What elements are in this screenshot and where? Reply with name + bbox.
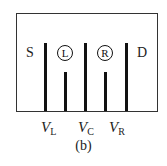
left-barrier-gate — [44, 43, 47, 111]
drain-lead-label: D — [137, 45, 147, 61]
right-dot-circle: R — [97, 45, 113, 61]
device-outline — [16, 13, 158, 112]
right-plunger-gate — [104, 72, 107, 111]
left-plunger-gate — [64, 72, 67, 111]
gate-label-vc: VC — [78, 119, 94, 137]
figure-caption: (b) — [0, 138, 167, 154]
center-barrier-gate — [84, 43, 87, 111]
right-barrier-gate — [125, 43, 128, 111]
source-lead-label: S — [26, 45, 34, 61]
double-quantum-dot-diagram: S D L R VL VC VR (b) — [0, 0, 167, 166]
gate-label-vr: VR — [109, 119, 125, 137]
left-dot-circle: L — [57, 45, 73, 61]
gate-label-vl: VL — [41, 119, 56, 137]
